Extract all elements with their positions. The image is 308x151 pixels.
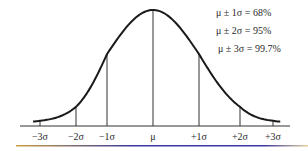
x-tick-labels: −3σ−2σ−1σμ+1σ+2σ+3σ [32,131,282,142]
annotation-2sd: μ ± 2σ = 95% [216,25,271,36]
x-tick-label: −3σ [32,131,49,142]
x-tick-label: +3σ [265,131,282,142]
x-tick-label: +1σ [191,131,208,142]
x-tick-label: μ [150,131,155,142]
decorative-underline [16,145,308,147]
annotation-1sd: μ ± 1σ = 68% [216,7,271,18]
normal-distribution-chart: −3σ−2σ−1σμ+1σ+2σ+3σ μ ± 1σ = 68% μ ± 2σ … [0,0,308,151]
annotation-3sd: μ ± 3σ = 99.7% [218,43,281,54]
x-tick-label: −1σ [99,131,116,142]
x-tick-label: +2σ [232,131,249,142]
x-tick-label: −2σ [68,131,85,142]
percent-annotations: μ ± 1σ = 68% μ ± 2σ = 95% μ ± 3σ = 99.7% [216,7,281,54]
